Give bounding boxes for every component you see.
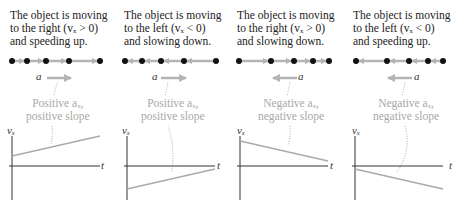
diagram-graphics xyxy=(0,0,460,211)
panel-4-velocity-line xyxy=(355,169,443,189)
panel-2-velocity-line xyxy=(127,169,215,189)
panel-3-velocity-line xyxy=(240,141,328,161)
panel-1-velocity-line xyxy=(12,136,100,156)
graph-axes xyxy=(9,136,443,200)
velocity-graphs xyxy=(12,136,443,189)
annotation-leaders xyxy=(51,82,407,172)
